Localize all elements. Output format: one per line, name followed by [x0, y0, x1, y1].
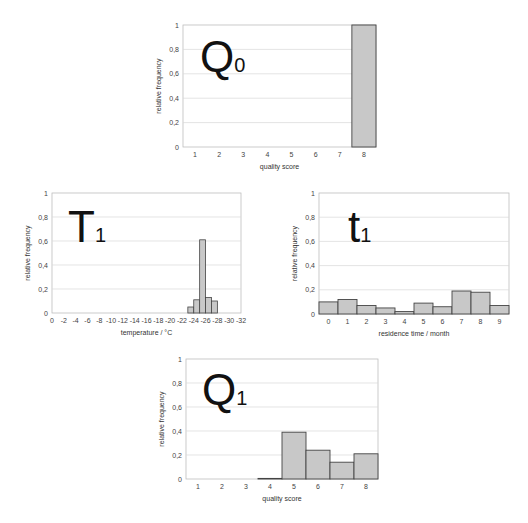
x-axis-label: quality score — [262, 495, 301, 503]
chart-Q0: 00,20,40,60,8112345678quality scorerelat… — [155, 22, 376, 172]
y-tick-label: 0,8 — [305, 214, 315, 221]
y-axis-label: relative frequency — [155, 58, 163, 114]
panel-label-subscript: 1 — [95, 224, 106, 246]
figure: 00,20,40,60,8112345678quality scorerelat… — [0, 0, 528, 523]
panel-label-main: Q — [202, 365, 236, 414]
bar — [306, 450, 330, 479]
x-tick-label: 7 — [340, 483, 344, 490]
chart-t1: 00,20,40,60,810123456789residence time /… — [291, 190, 509, 338]
x-tick-label: 2 — [365, 318, 369, 325]
x-tick-label: 2 — [220, 483, 224, 490]
x-tick-label: 6 — [314, 151, 318, 158]
x-axis-label: quality score — [260, 163, 299, 171]
x-tick-label: 4 — [268, 483, 272, 490]
x-tick-label: 1 — [193, 151, 197, 158]
x-tick-label: 5 — [422, 318, 426, 325]
x-tick-label: 5 — [290, 151, 294, 158]
bar — [414, 303, 433, 314]
x-tick-label: -24 — [189, 317, 199, 324]
y-tick-label: 0,4 — [169, 95, 179, 102]
y-tick-label: 0,2 — [38, 286, 48, 293]
bar — [490, 306, 509, 314]
y-tick-label: 0,2 — [169, 119, 179, 126]
x-tick-label: -12 — [118, 317, 128, 324]
x-tick-label: -30 — [224, 317, 234, 324]
bar — [354, 454, 378, 479]
x-tick-label: -10 — [106, 317, 116, 324]
bar — [211, 301, 217, 313]
panel-label-main: Q — [200, 32, 234, 81]
bar — [206, 297, 212, 313]
x-tick-label: 3 — [244, 483, 248, 490]
x-tick-label: 1 — [196, 483, 200, 490]
y-tick-label: 0,6 — [305, 238, 315, 245]
x-tick-label: 2 — [217, 151, 221, 158]
bar — [200, 240, 206, 313]
x-tick-label: 9 — [498, 318, 502, 325]
x-tick-label: 6 — [441, 318, 445, 325]
x-tick-label: -4 — [73, 317, 79, 324]
bar — [376, 308, 395, 314]
x-tick-label: 5 — [292, 483, 296, 490]
x-tick-label: 7 — [338, 151, 342, 158]
y-tick-label: 0,4 — [38, 262, 48, 269]
y-tick-label: 0,2 — [172, 452, 182, 459]
x-tick-label: -22 — [177, 317, 187, 324]
y-axis-label: relative frequency — [158, 391, 166, 447]
panel-label-main: T — [68, 202, 95, 251]
x-axis-label: residence time / month — [379, 330, 450, 337]
panel-label-subscript: 0 — [234, 54, 245, 76]
y-axis-label: relative frequency — [291, 225, 299, 281]
y-tick-label: 0,2 — [305, 286, 315, 293]
bar — [194, 300, 200, 313]
x-tick-label: 3 — [241, 151, 245, 158]
x-tick-label: 7 — [460, 318, 464, 325]
y-tick-label: 1 — [178, 356, 182, 363]
panel-label-subscript: 1 — [236, 387, 247, 409]
x-tick-label: 8 — [479, 318, 483, 325]
y-tick-label: 0,6 — [172, 404, 182, 411]
x-tick-label: -26 — [201, 317, 211, 324]
x-axis-label: temperature / °C — [121, 329, 172, 337]
y-tick-label: 1 — [44, 190, 48, 197]
x-tick-label: 1 — [346, 318, 350, 325]
x-tick-label: 8 — [362, 151, 366, 158]
x-tick-label: 8 — [364, 483, 368, 490]
y-tick-label: 1 — [311, 190, 315, 197]
bar — [258, 478, 282, 479]
y-tick-label: 0,8 — [169, 46, 179, 53]
x-tick-label: 0 — [327, 318, 331, 325]
x-tick-label: -8 — [96, 317, 102, 324]
y-tick-label: 0,4 — [172, 428, 182, 435]
bar — [395, 312, 414, 314]
bar — [452, 291, 471, 314]
chart-Q1: 00,20,40,60,8112345678quality scorerelat… — [158, 356, 378, 504]
y-tick-label: 0,8 — [172, 380, 182, 387]
y-tick-label: 0,4 — [305, 262, 315, 269]
y-tick-label: 1 — [175, 22, 179, 29]
chart-T1: 00,20,40,60,810-2-4-6-8-10-12-14-16-18-2… — [24, 190, 246, 338]
x-tick-label: -28 — [212, 317, 222, 324]
y-tick-label: 0,6 — [169, 70, 179, 77]
bar — [319, 302, 338, 314]
bar — [357, 306, 376, 314]
x-tick-label: 4 — [265, 151, 269, 158]
x-tick-label: -2 — [61, 317, 67, 324]
x-tick-label: -6 — [84, 317, 90, 324]
bar — [471, 292, 490, 314]
bar — [282, 432, 306, 479]
panel-label-main: t — [348, 202, 360, 251]
x-tick-label: 6 — [316, 483, 320, 490]
y-tick-label: 0 — [175, 144, 179, 151]
y-tick-label: 0,6 — [38, 238, 48, 245]
x-tick-label: -16 — [141, 317, 151, 324]
y-tick-label: 0,8 — [38, 214, 48, 221]
y-tick-label: 0 — [178, 476, 182, 483]
bar — [338, 299, 357, 314]
panel-label-subscript: 1 — [360, 224, 371, 246]
x-tick-label: -32 — [236, 317, 246, 324]
x-tick-label: 3 — [384, 318, 388, 325]
x-tick-label: 4 — [403, 318, 407, 325]
y-axis-label: relative frequency — [24, 225, 32, 281]
x-tick-label: -14 — [130, 317, 140, 324]
